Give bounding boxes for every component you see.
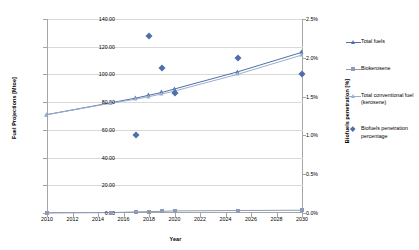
legend-key-icon (346, 39, 361, 46)
x-axis-tick (98, 213, 99, 217)
data-point-marker (236, 72, 240, 76)
x-axis-tick (302, 213, 303, 217)
data-point-marker (134, 96, 138, 100)
legend-item-1[interactable]: Biokerosene (346, 65, 419, 73)
x-axis-tick (200, 213, 201, 217)
y-axis-left-tick-label: 60.00 (71, 127, 115, 133)
x-axis-tick (226, 213, 227, 217)
y-axis-left-tick (43, 102, 47, 103)
data-point-marker (159, 91, 163, 95)
y-axis-right-tick-label: 1.0% (306, 132, 336, 138)
data-point-marker (299, 52, 303, 56)
data-point-marker (147, 210, 151, 214)
legend-item-0[interactable]: Total fuels (346, 38, 419, 46)
y-axis-left-tick (43, 19, 47, 20)
y-axis-right-tick (302, 97, 306, 98)
chart-legend: Total fuelsBiokeroseneTotal conventional… (346, 38, 419, 159)
data-point-marker (300, 208, 304, 212)
y-axis-right-tick-label: 1.5% (306, 94, 336, 100)
data-point-marker (45, 211, 49, 215)
y-axis-right-tick (302, 58, 306, 59)
y-axis-right-tick-label: 2.5% (306, 16, 336, 22)
y-axis-right-tick (302, 19, 306, 20)
y-axis-left-tick-label: 40.00 (71, 155, 115, 161)
x-axis-tick (175, 213, 176, 217)
y-axis-right-tick-label: 2.0% (306, 55, 336, 61)
y-axis-left-tick (43, 158, 47, 159)
data-point-marker (109, 211, 113, 215)
legend-item-2[interactable]: Total conventional fuel (kerosene) (346, 92, 419, 106)
y-axis-left-tick-label: 100.00 (71, 71, 115, 77)
legend-key-icon (346, 66, 361, 73)
y-axis-left-tick (43, 130, 47, 131)
x-axis-tick (251, 213, 252, 217)
y-axis-right-tick-label: 0.5% (306, 171, 336, 177)
data-point-marker (236, 209, 240, 213)
legend-label: Biokerosene (361, 65, 390, 72)
y-axis-right-tick (302, 135, 306, 136)
legend-label: Total fuels (361, 38, 385, 45)
x-axis-tick (73, 213, 74, 217)
y-axis-left-tick-label: 140.00 (71, 16, 115, 22)
data-point-marker (44, 112, 48, 116)
legend-item-3[interactable]: Biofuels penetration percentage (346, 125, 419, 139)
legend-label: Biofuels penetration percentage (361, 125, 419, 139)
y-axis-right-tick (302, 174, 306, 175)
y-axis-left-tick (43, 47, 47, 48)
y-axis-left-tick-label: 20.00 (71, 182, 115, 188)
chart-container: Fuel Projections [Mtoe] Biofuels penetra… (0, 0, 419, 250)
data-point-marker (160, 209, 164, 213)
y-axis-left-tick-label: 120.00 (71, 44, 115, 50)
data-point-marker (108, 101, 112, 105)
legend-label: Total conventional fuel (kerosene) (361, 92, 419, 106)
x-axis-tick (277, 213, 278, 217)
data-point-marker (173, 209, 177, 213)
y-axis-left-tick (43, 74, 47, 75)
y-axis-left-tick (43, 185, 47, 186)
legend-key-icon (346, 93, 361, 100)
x-axis-tick (124, 213, 125, 217)
data-point-marker (134, 210, 138, 214)
data-point-marker (146, 94, 150, 98)
series-line-0 (47, 52, 302, 114)
legend-key-icon (346, 126, 361, 133)
